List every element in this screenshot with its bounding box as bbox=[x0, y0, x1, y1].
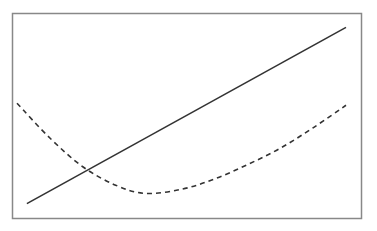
line-chart bbox=[0, 0, 377, 231]
series-layer bbox=[17, 27, 346, 203]
chart-canvas bbox=[0, 0, 377, 231]
linear-series-line bbox=[27, 27, 346, 203]
quadratic-series-line bbox=[17, 103, 346, 193]
